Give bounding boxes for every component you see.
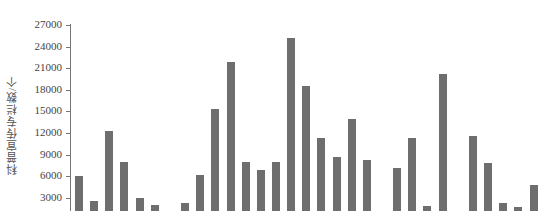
bar xyxy=(242,162,250,211)
y-tick-label: 9000 xyxy=(22,148,62,160)
y-tick xyxy=(66,111,70,112)
bar xyxy=(484,163,492,211)
bar xyxy=(211,109,219,211)
bar xyxy=(227,62,235,211)
y-tick-label: 27000 xyxy=(22,18,62,30)
y-tick xyxy=(66,90,70,91)
bar xyxy=(136,198,144,211)
bar xyxy=(287,38,295,211)
bar-chart: 科普宣传专栏数/个 300060009000120001500018000210… xyxy=(0,0,549,211)
y-tick xyxy=(66,25,70,26)
y-tick-label: 24000 xyxy=(22,40,62,52)
y-tick-label: 3000 xyxy=(22,191,62,203)
bar xyxy=(151,205,159,211)
bar xyxy=(514,207,522,211)
y-tick-label: 6000 xyxy=(22,169,62,181)
bar xyxy=(408,138,416,211)
bar xyxy=(348,119,356,212)
y-tick-label: 12000 xyxy=(22,126,62,138)
bar xyxy=(333,157,341,211)
bar xyxy=(257,170,265,211)
y-tick xyxy=(66,68,70,69)
bar xyxy=(530,185,538,211)
y-tick xyxy=(66,133,70,134)
y-tick-label: 21000 xyxy=(22,61,62,73)
bar xyxy=(439,74,447,211)
bar xyxy=(423,206,431,211)
y-tick xyxy=(66,198,70,199)
bar xyxy=(120,162,128,211)
bar xyxy=(196,175,204,211)
y-tick xyxy=(66,176,70,177)
y-tick xyxy=(66,47,70,48)
bar xyxy=(90,201,98,211)
bar xyxy=(469,136,477,211)
y-tick-label: 15000 xyxy=(22,104,62,116)
y-tick-label: 18000 xyxy=(22,83,62,95)
bar xyxy=(105,131,113,211)
bar xyxy=(272,162,280,211)
bar xyxy=(393,168,401,211)
bar xyxy=(302,86,310,211)
bar xyxy=(363,160,371,211)
bar xyxy=(317,138,325,211)
y-axis-line xyxy=(70,24,71,211)
y-tick xyxy=(66,155,70,156)
bar xyxy=(499,203,507,211)
bar xyxy=(181,203,189,211)
bar xyxy=(75,176,83,211)
y-axis-label: 科普宣传专栏数/个 xyxy=(4,40,22,210)
